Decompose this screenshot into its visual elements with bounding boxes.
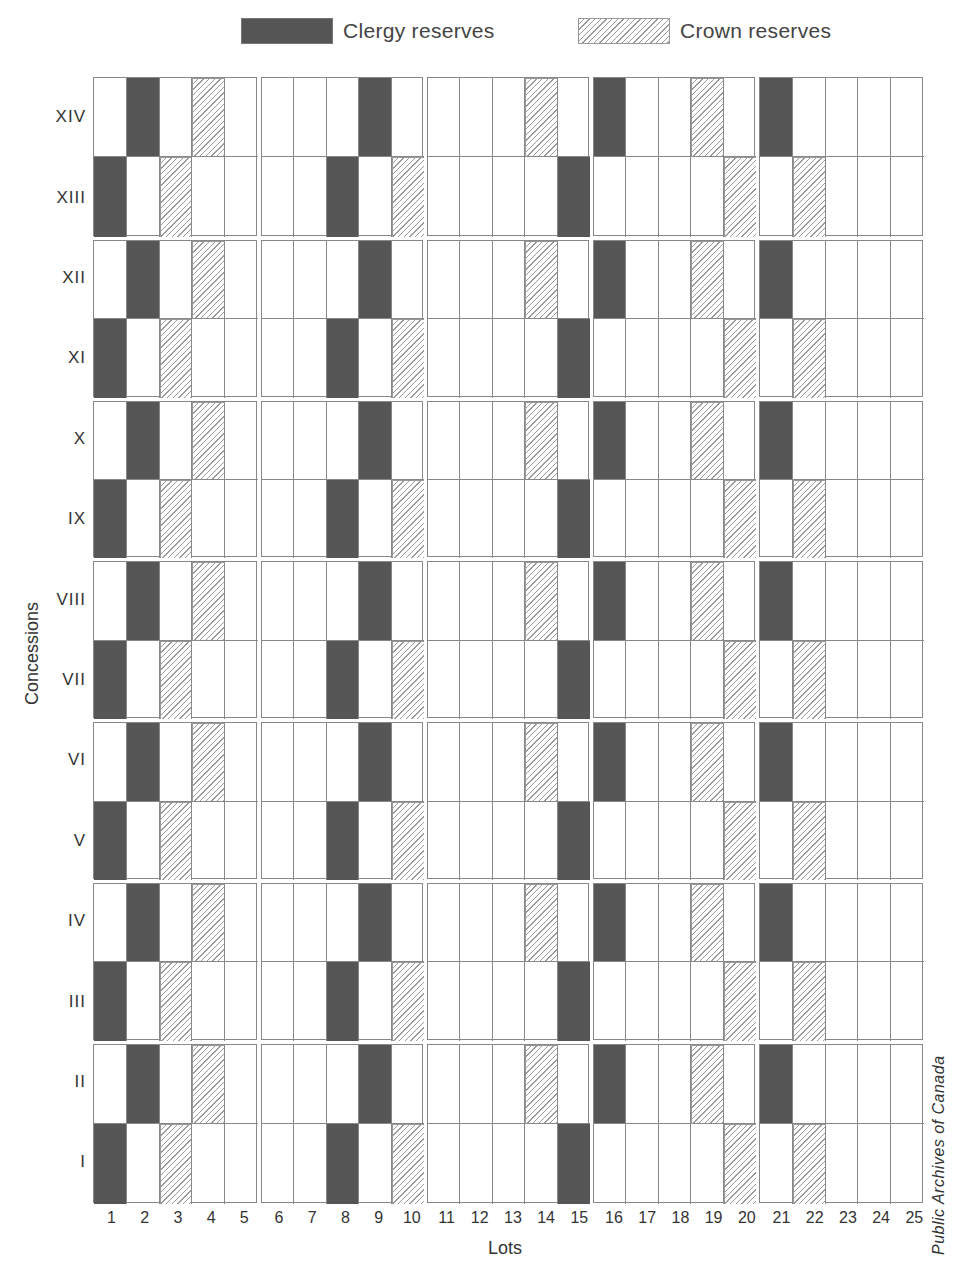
- lot-cell: [262, 802, 294, 880]
- lot-label: 4: [195, 1209, 228, 1227]
- lot-cell: [594, 802, 626, 880]
- lot-cell: [294, 319, 326, 397]
- lot-cell: [525, 641, 557, 719]
- lot-cell: [691, 157, 723, 236]
- lot-block: [93, 77, 257, 236]
- lot-cell-clergy: [94, 157, 127, 236]
- lot-label: 15: [563, 1209, 596, 1227]
- lot-cell-clergy: [127, 241, 160, 319]
- lot-cell-crown: [793, 1124, 826, 1203]
- lot-cell: [858, 641, 891, 719]
- lot-cell: [525, 157, 557, 236]
- lot-cell-clergy: [760, 241, 793, 319]
- lot-cell: [826, 241, 859, 319]
- lot-cell-crown: [160, 802, 193, 880]
- lot-cell: [192, 962, 225, 1040]
- lot-cell: [659, 562, 691, 640]
- lot-cell: [826, 157, 859, 236]
- lot-cell: [294, 480, 326, 558]
- lot-cell-crown: [525, 562, 557, 640]
- lot-cell-crown: [793, 641, 826, 719]
- lot-cell-clergy: [558, 802, 590, 880]
- lot-cell: [558, 562, 590, 640]
- lot-cell: [359, 1124, 391, 1203]
- lot-cell: [558, 78, 590, 157]
- lot-cell: [294, 402, 326, 480]
- lot-cell-crown: [793, 962, 826, 1040]
- lot-cell: [659, 1124, 691, 1203]
- lot-cell: [594, 157, 626, 236]
- lot-cell: [659, 802, 691, 880]
- lot-cell: [493, 723, 525, 801]
- concession-label: II: [26, 1072, 86, 1092]
- lot-cell: [558, 402, 590, 480]
- lot-cell: [558, 884, 590, 962]
- lot-cell: [626, 884, 658, 962]
- lot-cell-clergy: [127, 884, 160, 962]
- lot-cell: [94, 78, 127, 157]
- lot-cell: [460, 402, 492, 480]
- lot-cell: [493, 641, 525, 719]
- concession-label: XIII: [26, 188, 86, 208]
- lot-cell-clergy: [94, 480, 127, 558]
- lot-cell: [192, 157, 225, 236]
- lot-cell: [659, 723, 691, 801]
- lot-cell: [858, 562, 891, 640]
- lot-cell-clergy: [760, 562, 793, 640]
- lot-cell-clergy: [594, 402, 626, 480]
- source-credit: Public Archives of Canada: [930, 1055, 948, 1255]
- lot-cell-crown: [192, 241, 225, 319]
- lot-cell: [192, 1124, 225, 1203]
- lot-cell: [626, 723, 658, 801]
- lot-cell: [891, 884, 924, 962]
- lot-cell-crown: [192, 723, 225, 801]
- lot-cell: [359, 802, 391, 880]
- lot-cell: [225, 1045, 258, 1124]
- lot-cell: [858, 723, 891, 801]
- lot-label: 2: [128, 1209, 161, 1227]
- lot-cell: [594, 962, 626, 1040]
- lot-cell: [94, 402, 127, 480]
- lot-cell: [160, 402, 193, 480]
- lot-cell: [493, 884, 525, 962]
- lot-cell: [891, 562, 924, 640]
- lot-cell: [262, 562, 294, 640]
- lot-cell: [659, 402, 691, 480]
- lot-cell: [691, 802, 723, 880]
- lot-cell: [858, 480, 891, 558]
- lot-cell: [793, 78, 826, 157]
- lot-cell-crown: [192, 884, 225, 962]
- lot-cell: [793, 562, 826, 640]
- lot-cell-crown: [392, 480, 424, 558]
- lot-cell: [225, 641, 258, 719]
- lot-label: 13: [496, 1209, 529, 1227]
- lot-cell: [891, 962, 924, 1040]
- lot-cell-clergy: [327, 480, 359, 558]
- lot-cell-crown: [160, 962, 193, 1040]
- lot-cell: [327, 1045, 359, 1124]
- lot-cell: [858, 1124, 891, 1203]
- lot-cell: [225, 319, 258, 397]
- lot-cell: [858, 1045, 891, 1124]
- concession-label: X: [26, 429, 86, 449]
- lot-cell: [294, 884, 326, 962]
- lot-cell: [225, 562, 258, 640]
- lot-cell-crown: [691, 402, 723, 480]
- lot-block: [261, 401, 423, 558]
- lot-cell: [626, 78, 658, 157]
- lot-cell: [525, 962, 557, 1040]
- concession-label: III: [26, 992, 86, 1012]
- lot-cell: [127, 802, 160, 880]
- lot-block: [93, 1044, 257, 1203]
- lot-cell: [691, 480, 723, 558]
- lot-cell: [460, 319, 492, 397]
- lot-cell-crown: [691, 241, 723, 319]
- lot-block: [759, 1044, 923, 1203]
- lot-cell: [626, 480, 658, 558]
- lot-cell: [858, 402, 891, 480]
- lot-cell: [192, 480, 225, 558]
- lot-cell: [659, 480, 691, 558]
- lot-cell: [160, 78, 193, 157]
- lot-cell-crown: [160, 319, 193, 397]
- lot-cell: [192, 319, 225, 397]
